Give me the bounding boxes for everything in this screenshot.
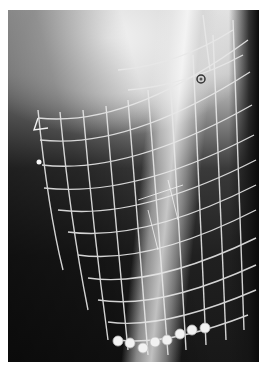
markers-and-screws bbox=[8, 10, 259, 362]
xray-image bbox=[8, 10, 259, 362]
dot-marker-icon bbox=[37, 160, 42, 165]
